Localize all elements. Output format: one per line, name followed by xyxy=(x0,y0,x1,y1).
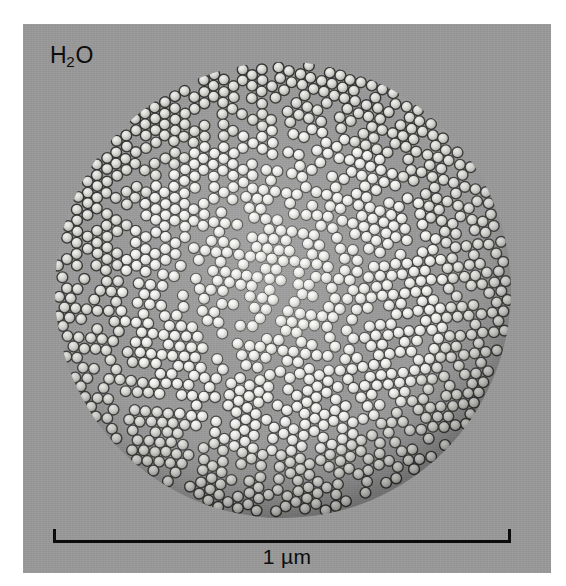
figure-root: H2O xyxy=(0,0,566,586)
scale-bar-cap-right xyxy=(508,529,511,543)
colloidal-crystal-aggregate xyxy=(23,24,551,573)
micrograph-panel: H2O xyxy=(23,24,551,573)
sphere-cluster-svg xyxy=(23,24,551,573)
scale-bar-label: 1 µm xyxy=(23,546,551,567)
specimen-label-prefix: H xyxy=(50,42,67,68)
scale-bar xyxy=(53,529,511,543)
aggregate-vignette xyxy=(55,62,511,518)
specimen-label-subscript: 2 xyxy=(66,53,75,70)
specimen-label-suffix: O xyxy=(75,42,93,68)
specimen-label: H2O xyxy=(50,44,94,67)
scale-bar-line xyxy=(53,540,511,543)
